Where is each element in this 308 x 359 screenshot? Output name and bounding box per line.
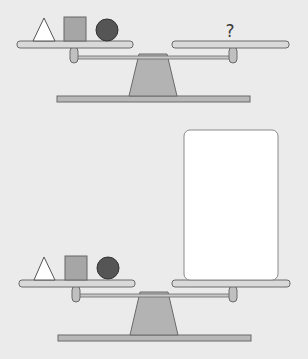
right-post [229,286,237,302]
left-post [70,47,78,63]
square-shape [64,17,86,41]
answer-card[interactable] [184,130,278,280]
question-mark: ? [225,21,234,41]
right-post [229,47,237,63]
circle-shape [97,257,119,279]
right-pan [172,280,290,287]
triangle-shape [34,257,55,280]
scale-base [57,96,250,102]
circle-shape [96,19,118,41]
scale-base [58,335,251,341]
triangle-shape [33,18,55,41]
scale-bottom [19,130,290,341]
beam [76,294,233,297]
fulcrum [129,54,177,96]
balance-scale-diagram: ? [0,0,308,359]
square-shape [65,256,87,280]
fulcrum [130,292,178,335]
left-post [72,286,80,302]
scale-top: ? [17,17,289,102]
beam [76,56,233,59]
left-pan [19,280,135,287]
left-pan [17,41,133,48]
right-pan [172,41,289,48]
